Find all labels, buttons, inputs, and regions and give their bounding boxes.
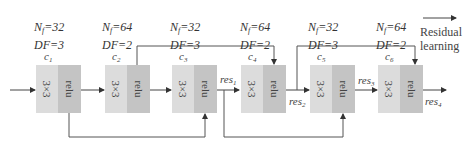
relu-layer: relu — [332, 65, 355, 113]
block-c4-name: c4 — [248, 50, 256, 64]
block-c5-params: Nf=32 DF=3 — [308, 20, 338, 52]
block-c6-name: c6 — [385, 50, 393, 64]
conv-layer: 3×3 — [241, 65, 263, 113]
block-c2: 3×3 relu — [105, 65, 150, 113]
block-c2-name: c2 — [112, 50, 120, 64]
block-c3-name: c3 — [179, 50, 187, 64]
relu-layer: relu — [263, 65, 286, 113]
block-c3-params: Nf=32 DF=3 — [170, 20, 200, 52]
res1-label: res1 — [220, 73, 237, 87]
block-c4: 3×3 relu — [241, 65, 286, 113]
block-c2-params: Nf=64 DF=2 — [102, 20, 132, 52]
legend: Residual learning — [420, 25, 462, 53]
res4-label: res4 — [425, 95, 442, 109]
res3-label: res3 — [358, 74, 375, 88]
block-c5-name: c5 — [317, 50, 325, 64]
block-c5: 3×3 relu — [310, 65, 355, 113]
conv-layer: 3×3 — [36, 65, 58, 113]
conv-layer: 3×3 — [172, 65, 194, 113]
block-c1-params: Nf=32 DF=3 — [34, 20, 64, 52]
block-c1-name: c1 — [44, 50, 52, 64]
conv-layer: 3×3 — [378, 65, 400, 113]
relu-layer: relu — [194, 65, 217, 113]
conv-layer: 3×3 — [105, 65, 127, 113]
residual-network-diagram: Nf=32 DF=3 Nf=64 DF=2 Nf=32 DF=3 Nf=64 D… — [0, 0, 467, 149]
block-c6-params: Nf=64 DF=2 — [376, 20, 406, 52]
block-c6: 3×3 relu — [378, 65, 423, 113]
block-c3: 3×3 relu — [172, 65, 217, 113]
block-c1: 3×3 relu — [36, 65, 81, 113]
relu-layer: relu — [58, 65, 81, 113]
relu-layer: relu — [400, 65, 423, 113]
block-c4-params: Nf=64 DF=2 — [240, 20, 270, 52]
conv-layer: 3×3 — [310, 65, 332, 113]
skip-c1-c3 — [69, 113, 205, 137]
res2-label: res2 — [289, 95, 306, 109]
relu-layer: relu — [127, 65, 150, 113]
